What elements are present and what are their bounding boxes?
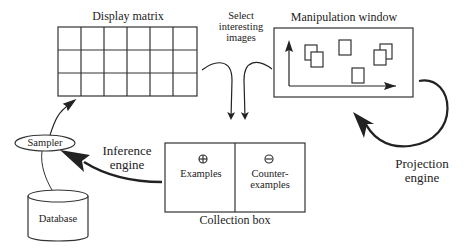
counter-examples-line2: examples: [236, 179, 304, 190]
collection-box-title: Collection box: [185, 214, 285, 227]
database-label: Database: [28, 213, 88, 224]
select-label-line1: Select: [213, 10, 269, 21]
inference-engine-line1: Inference: [92, 144, 162, 158]
examples-label: Examples: [167, 168, 235, 179]
counter-examples-line1: Counter-: [236, 168, 304, 179]
select-images-label: Select interesting images: [213, 10, 269, 43]
counter-examples-label: Counter- examples: [236, 168, 304, 190]
select-label-line2: interesting: [213, 21, 269, 32]
projection-engine-line2: engine: [382, 171, 462, 185]
projection-engine-line1: Projection: [382, 157, 462, 171]
manipulation-window-title: Manipulation window: [279, 11, 409, 24]
inference-engine-line2: engine: [92, 158, 162, 172]
sampler-database-link: [42, 151, 52, 190]
display-matrix-grid: [58, 27, 197, 96]
select-arrows: [202, 62, 272, 118]
projection-engine-label: Projection engine: [382, 157, 462, 184]
display-matrix-title: Display matrix: [78, 10, 178, 23]
manipulation-window: [274, 28, 413, 97]
sampler-label: Sampler: [20, 137, 70, 148]
select-label-line3: images: [213, 32, 269, 43]
inference-engine-label: Inference engine: [92, 144, 162, 171]
projection-engine-arrow: [353, 80, 448, 146]
sampler-to-matrix-arrow: [50, 100, 75, 135]
